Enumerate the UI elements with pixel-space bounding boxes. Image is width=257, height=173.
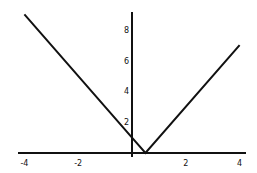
y-tick-label: 8 [124, 26, 129, 35]
x-tick-label: 4 [237, 159, 242, 168]
y-tick-label: 4 [124, 87, 129, 96]
x-tick-label: -4 [20, 159, 28, 168]
plot-area: -4-2242468 [0, 0, 257, 173]
x-tick-label: 2 [183, 159, 188, 168]
x-tick-label: -2 [74, 159, 82, 168]
absolute-value-chart: -4-2242468 [0, 0, 257, 173]
y-tick-label: 2 [124, 118, 129, 127]
y-tick-label: 6 [124, 57, 129, 66]
